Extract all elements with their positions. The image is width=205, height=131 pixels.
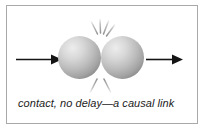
impact-lines-top-icon xyxy=(92,20,115,37)
figure-caption: contact, no delay—a causal link xyxy=(18,97,190,110)
figure-container: contact, no delay—a causal link xyxy=(0,0,205,131)
impact-lines-bottom-icon xyxy=(91,79,111,93)
left-sphere xyxy=(58,36,101,79)
right-sphere xyxy=(101,36,144,79)
right-motion-arrow-icon xyxy=(146,55,183,65)
left-motion-arrow-icon xyxy=(16,55,62,65)
collision-diagram xyxy=(0,0,205,131)
